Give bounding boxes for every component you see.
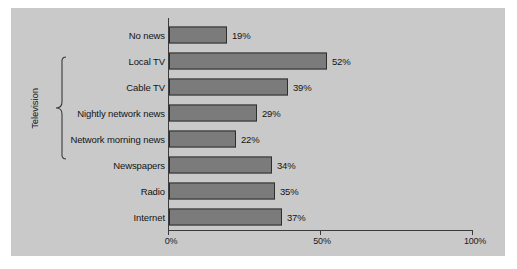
bar-row: Cable TV 39%	[11, 74, 505, 100]
bar	[169, 209, 282, 226]
chart-panel: Television 0% 50% 100% No news 19% Local…	[11, 8, 505, 256]
category-label: Cable TV	[126, 82, 165, 93]
bar-value-label: 37%	[287, 212, 305, 223]
bar-value-label: 19%	[232, 30, 250, 41]
x-tick-100	[472, 230, 473, 235]
bar-row: Radio 35%	[11, 178, 505, 204]
bar-chart: Television 0% 50% 100% No news 19% Local…	[0, 0, 517, 269]
category-label: Nightly network news	[77, 108, 165, 119]
category-label: Local TV	[128, 56, 165, 67]
x-tick-label-0: 0%	[165, 236, 178, 246]
bar-value-label: 52%	[332, 56, 350, 67]
category-label: Radio	[141, 186, 165, 197]
bar-value-label: 22%	[241, 134, 259, 145]
bar-value-label: 29%	[262, 108, 280, 119]
category-label: Newspapers	[113, 160, 165, 171]
bar	[169, 27, 227, 44]
category-label: Internet	[134, 212, 165, 223]
bar	[169, 79, 288, 96]
bar-row: Local TV 52%	[11, 48, 505, 74]
bar-row: Internet 37%	[11, 204, 505, 230]
bar-row: Network morning news 22%	[11, 126, 505, 152]
bar-row: Nightly network news 29%	[11, 100, 505, 126]
bar	[169, 183, 275, 200]
x-tick-0	[168, 230, 169, 235]
bar-value-label: 39%	[293, 82, 311, 93]
bar-value-label: 34%	[277, 160, 295, 171]
category-label: Network morning news	[70, 134, 165, 145]
bar-row: Newspapers 34%	[11, 152, 505, 178]
x-tick-label-50: 50%	[313, 236, 330, 246]
bar	[169, 131, 236, 148]
bar	[169, 157, 272, 174]
x-tick-label-100: 100%	[464, 236, 486, 246]
bar-row: No news 19%	[11, 22, 505, 48]
bar	[169, 105, 257, 122]
x-tick-50	[320, 230, 321, 235]
category-label: No news	[129, 30, 165, 41]
bar-value-label: 35%	[280, 186, 298, 197]
bar	[169, 53, 327, 70]
